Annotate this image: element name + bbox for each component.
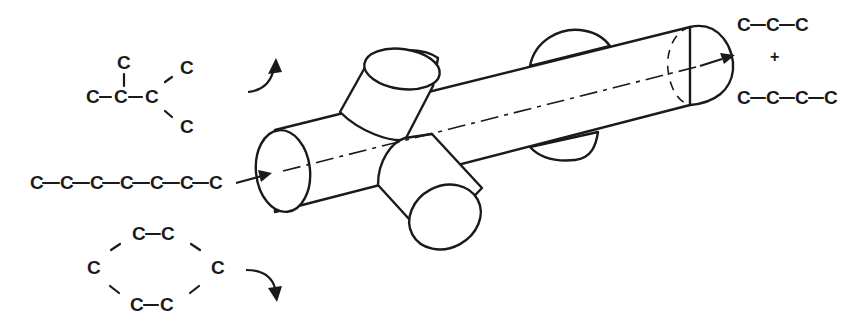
reject-down-arrow <box>246 270 282 302</box>
zeolite-channel <box>252 26 733 262</box>
curved-arrow-icon <box>248 72 273 92</box>
branched-molecule: C C C C C C <box>86 52 194 137</box>
bond <box>110 286 119 293</box>
atom-c: C <box>211 257 225 278</box>
main-channel-body <box>275 27 690 212</box>
linear-molecule: C C C C C C C <box>30 172 223 193</box>
zeolite-shape-selectivity-diagram: C C C C C C C C C C C C C C <box>0 0 858 334</box>
atom-c: C <box>180 172 194 193</box>
atom-c: C <box>161 223 175 244</box>
arrowhead-icon <box>268 286 282 302</box>
atom-c: C <box>87 257 101 278</box>
reject-up-arrow <box>248 58 282 92</box>
atom-c: C <box>766 14 780 35</box>
atom-c: C <box>145 86 159 107</box>
plus-sign: + <box>770 48 779 65</box>
atom-c: C <box>130 294 144 315</box>
atom-c: C <box>737 87 751 108</box>
atom-c: C <box>795 14 809 35</box>
atom-c: C <box>209 172 223 193</box>
atom-c: C <box>86 86 100 107</box>
cyclic-molecule: C C C C C C <box>87 223 225 315</box>
bond <box>111 244 120 250</box>
exit-arrow <box>700 53 735 66</box>
curved-arrow-icon <box>246 270 275 288</box>
atom-c: C <box>180 57 194 78</box>
bond <box>165 77 172 82</box>
atom-c: C <box>117 52 131 73</box>
bond <box>165 111 172 117</box>
atom-c: C <box>114 86 128 107</box>
product-propane: C C C <box>737 14 809 35</box>
atom-c: C <box>60 172 74 193</box>
bond <box>190 286 199 293</box>
atom-c: C <box>150 172 164 193</box>
atom-c: C <box>132 223 146 244</box>
atom-c: C <box>120 172 134 193</box>
atom-c: C <box>795 87 809 108</box>
atom-c: C <box>766 87 780 108</box>
exit-arrow-line <box>700 59 722 66</box>
product-butane: C C C C <box>737 87 838 108</box>
atom-c: C <box>30 172 44 193</box>
atom-c: C <box>824 87 838 108</box>
atom-c: C <box>90 172 104 193</box>
atom-c: C <box>180 116 194 137</box>
channel-exit-rim <box>690 26 733 105</box>
arrowhead-icon <box>268 58 282 74</box>
atom-c: C <box>737 14 751 35</box>
bond <box>191 244 200 250</box>
atom-c: C <box>160 294 174 315</box>
